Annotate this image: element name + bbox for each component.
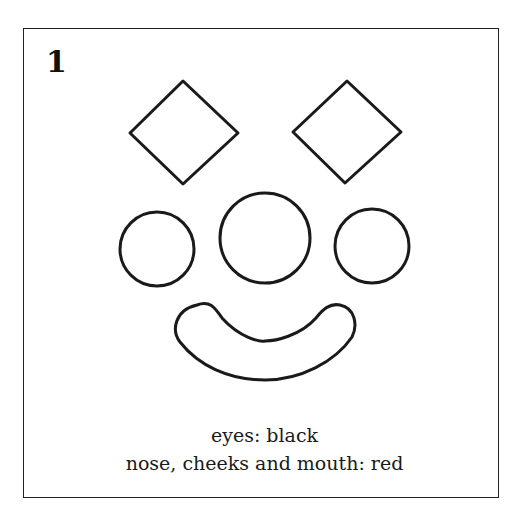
- right-cheek-circle: [335, 209, 409, 283]
- left-cheek-circle: [120, 212, 194, 286]
- caption-nose-cheeks-mouth: nose, cheeks and mouth: red: [0, 452, 529, 474]
- caption-eyes: eyes: black: [0, 424, 529, 446]
- mouth-crescent: [176, 303, 355, 380]
- nose-circle: [220, 193, 310, 283]
- right-eye-diamond: [293, 81, 401, 183]
- left-eye-diamond: [130, 81, 238, 184]
